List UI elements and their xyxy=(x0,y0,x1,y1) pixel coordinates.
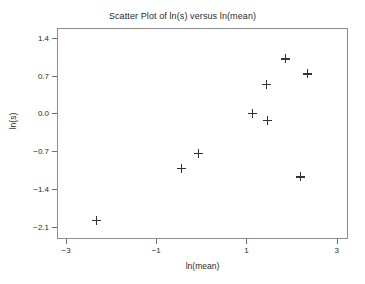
data-point xyxy=(262,80,271,89)
x-tick-mark xyxy=(337,239,338,244)
y-tick-label: 0.7 xyxy=(9,71,49,80)
data-point xyxy=(177,164,186,173)
scatter-plot-figure: Scatter Plot of ln(s) versus ln(mean) 1.… xyxy=(0,0,365,284)
y-axis-label: ln(s) xyxy=(8,91,18,151)
y-tick-mark xyxy=(52,189,57,190)
y-tick-mark xyxy=(52,38,57,39)
x-axis-label: ln(mean) xyxy=(57,261,348,271)
x-tick-label: −1 xyxy=(141,246,171,255)
x-tick-mark xyxy=(246,239,247,244)
chart-title: Scatter Plot of ln(s) versus ln(mean) xyxy=(0,11,365,21)
x-tick-label: −3 xyxy=(51,246,81,255)
data-point xyxy=(296,172,305,181)
data-point xyxy=(281,54,290,63)
data-point xyxy=(92,216,101,225)
x-tick-mark xyxy=(66,239,67,244)
data-point xyxy=(263,116,272,125)
y-tick-label: −2.1 xyxy=(9,223,49,232)
data-point xyxy=(194,149,203,158)
y-tick-mark xyxy=(52,151,57,152)
x-tick-label: 3 xyxy=(322,246,352,255)
data-point xyxy=(303,69,312,78)
y-tick-mark xyxy=(52,76,57,77)
x-tick-label: 1 xyxy=(231,246,261,255)
plot-data-area xyxy=(57,28,348,239)
y-tick-label: 1.4 xyxy=(9,33,49,42)
x-tick-mark xyxy=(156,239,157,244)
y-tick-mark xyxy=(52,113,57,114)
y-tick-mark xyxy=(52,227,57,228)
y-tick-label: −1.4 xyxy=(9,185,49,194)
data-point xyxy=(248,109,257,118)
